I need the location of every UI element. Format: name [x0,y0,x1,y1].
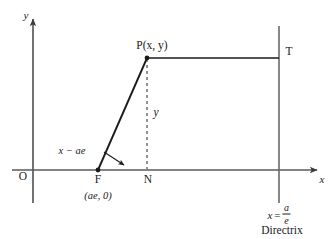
x-axis-label: x [320,174,325,185]
directrix-fraction-numerator: a [283,203,290,214]
directrix-fraction: a e [283,203,291,226]
conic-focus-directrix-figure: y x O F (ae, 0) N P(x, y) T x − ae y x =… [0,0,334,239]
leader-x-minus-ae [104,152,124,165]
y-axis-label: y [24,10,29,21]
focus-point-label: F [95,174,101,186]
focus-coordinates-label: (ae, 0) [84,191,111,202]
origin-label: O [19,171,27,183]
t-point-label: T [285,46,292,58]
point-marker-p [145,56,150,61]
directrix-caption: Directrix [261,225,303,237]
n-point-label: N [144,174,152,186]
point-marker-focus [96,168,101,173]
segment-fp-length-label: x − ae [59,146,86,157]
p-point-label: P(x, y) [136,40,167,52]
segment-pn-length-label: y [153,107,158,119]
directrix-equation-equals: = [274,208,280,220]
directrix-equation: x = a e [267,203,290,226]
directrix-equation-lhs: x [267,208,272,220]
